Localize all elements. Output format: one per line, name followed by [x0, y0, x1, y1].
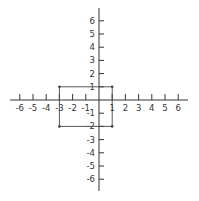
vertex-point [111, 125, 114, 128]
y-tick-label: -3 [87, 135, 95, 145]
y-tick-label: -1 [87, 108, 95, 118]
x-tick-label: 3 [136, 103, 141, 113]
axes [10, 8, 188, 191]
y-tick-label: 3 [90, 55, 95, 65]
vertex-point [58, 125, 61, 128]
x-tick-label: -2 [68, 103, 76, 113]
y-tick-label: 5 [90, 29, 95, 39]
y-tick-label: 2 [90, 69, 95, 79]
x-tick-label: 4 [149, 103, 154, 113]
x-tick-label: -5 [29, 103, 37, 113]
y-tick-label: -6 [87, 174, 95, 184]
x-tick-label: 6 [175, 103, 180, 113]
vertex-point [58, 86, 61, 89]
x-tick-label: 2 [123, 103, 128, 113]
coordinate-plane: -6-5-4-3-2-1123456654321-1-2-3-4-5-6 [0, 0, 199, 201]
x-tick-label: -6 [16, 103, 24, 113]
y-tick-label: -4 [87, 148, 95, 158]
vertex-point [111, 86, 114, 89]
y-tick-label: -5 [87, 161, 95, 171]
y-tick-label: 6 [90, 16, 95, 26]
x-tick-label: -4 [42, 103, 50, 113]
x-tick-label: 5 [162, 103, 167, 113]
y-tick-label: 4 [90, 42, 95, 52]
